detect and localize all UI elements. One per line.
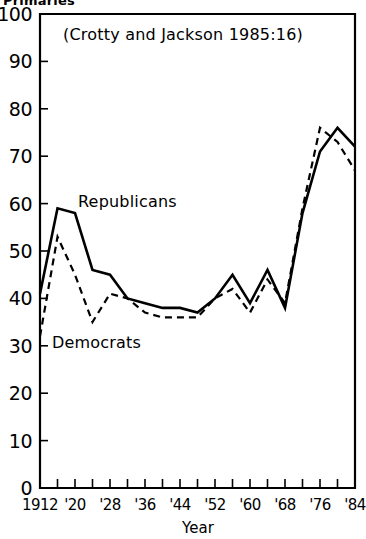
y-tick-label: 50: [9, 240, 32, 262]
y-axis-title-clipped: Primaries: [3, 0, 75, 8]
x-axis-title: Year: [181, 519, 215, 537]
series-label-democrats: Democrats: [52, 333, 141, 352]
y-tick-label: 20: [9, 382, 32, 404]
y-axis-ticks: [40, 61, 48, 440]
x-tick-label: '84: [344, 496, 366, 514]
series-line-republicans: [40, 128, 355, 313]
x-tick-label: '76: [309, 496, 331, 514]
y-axis-tick-labels: 0102030405060708090100: [0, 3, 32, 499]
x-axis-ticks: [40, 479, 355, 488]
x-axis-tick-labels: 1912'20'28'36'44'52'60'68'76'84: [22, 496, 366, 514]
x-tick-label: '20: [64, 496, 86, 514]
x-tick-label: '68: [274, 496, 296, 514]
y-tick-label: 40: [9, 287, 32, 309]
x-tick-label: '52: [204, 496, 226, 514]
y-tick-label: 70: [9, 145, 32, 167]
x-tick-label: 1912: [22, 496, 58, 514]
y-tick-label: 90: [9, 50, 32, 72]
x-tick-label: '28: [99, 496, 121, 514]
figure-container: Primaries 0102030405060708090100 1912'20…: [0, 0, 366, 539]
y-tick-label: 80: [9, 98, 32, 120]
x-tick-label: '36: [134, 496, 156, 514]
y-tick-label: 60: [9, 193, 32, 215]
line-chart: 0102030405060708090100 1912'20'28'36'44'…: [0, 0, 366, 539]
x-tick-label: '60: [239, 496, 261, 514]
series-label-republicans: Republicans: [78, 192, 177, 211]
series-line-democrats: [40, 128, 355, 337]
chart-title: (Crotty and Jackson 1985:16): [63, 25, 303, 44]
y-tick-label: 30: [9, 335, 32, 357]
y-tick-label: 10: [9, 430, 32, 452]
x-tick-label: '44: [169, 496, 191, 514]
